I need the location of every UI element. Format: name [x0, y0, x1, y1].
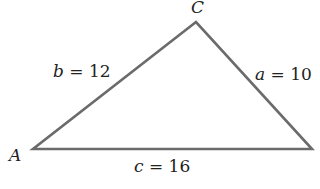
- vertex-label-a: A: [7, 145, 21, 165]
- side-b-variable: b: [53, 61, 64, 81]
- side-c-variable: c: [134, 156, 144, 176]
- side-c-equals: =: [144, 156, 169, 176]
- side-a-equals: =: [265, 64, 290, 84]
- triangle-abc: [33, 22, 312, 149]
- triangle-diagram: C A b = 12 a = 10 c = 16: [0, 0, 320, 189]
- side-label-b: b = 12: [53, 61, 111, 81]
- side-label-a: a = 10: [255, 64, 312, 84]
- vertex-label-c: C: [191, 0, 204, 17]
- side-b-equals: =: [64, 61, 89, 81]
- side-a-value: 10: [290, 64, 312, 84]
- side-c-value: 16: [169, 156, 191, 176]
- side-a-variable: a: [255, 64, 265, 84]
- side-label-c: c = 16: [134, 156, 190, 176]
- side-b-value: 12: [89, 61, 111, 81]
